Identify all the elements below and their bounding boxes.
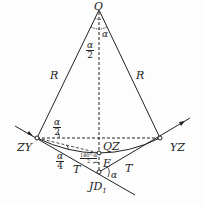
- fraction-half-at-zy: α 2: [53, 118, 61, 137]
- point-zy: [35, 136, 39, 140]
- label-radius-left: R: [50, 70, 58, 81]
- fraction-angle-at-jd: 180°-α 2: [80, 153, 97, 164]
- label-qz: QZ: [103, 141, 120, 152]
- fraction-half-central: α 2: [86, 41, 94, 60]
- label-tangent-right: T: [125, 163, 132, 174]
- label-radius-right: R: [136, 70, 144, 81]
- label-center-o: O: [94, 1, 103, 12]
- radius-left-line: [37, 10, 99, 138]
- label-tangent-left: T: [73, 164, 80, 175]
- label-deflection-angle: α: [111, 171, 117, 180]
- label-central-angle: α: [102, 30, 108, 39]
- tangent-line-left: [15, 126, 135, 195]
- curve-geometry-diagram: O α α 2 R R α 2 ZY YZ QZ α 4 180°-α 2 E …: [0, 0, 204, 206]
- point-jd: [97, 170, 101, 174]
- label-jd: JD1: [89, 181, 107, 195]
- point-yz: [158, 136, 162, 140]
- arrow-icon: [179, 121, 185, 126]
- arrow-icon: [27, 131, 33, 136]
- radius-right-line: [99, 10, 160, 138]
- label-e: E: [103, 158, 111, 169]
- point-qz: [97, 151, 101, 155]
- label-zy: ZY: [17, 142, 32, 153]
- fraction-quarter-at-zy: α 4: [56, 152, 64, 171]
- short-chord-dashed: [37, 138, 99, 153]
- label-yz: YZ: [170, 142, 185, 153]
